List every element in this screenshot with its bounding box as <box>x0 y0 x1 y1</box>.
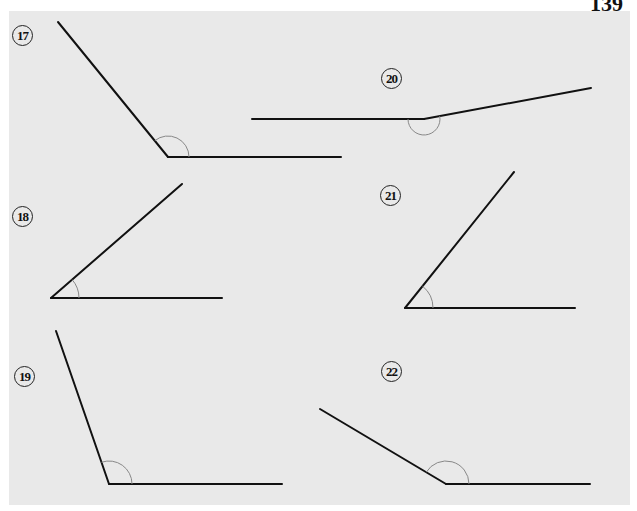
problem-number-21: 21 <box>380 185 401 206</box>
ray-arm <box>424 88 591 119</box>
problem-number-22: 22 <box>381 361 402 382</box>
angle-figures <box>0 0 637 511</box>
ray-arm <box>58 22 168 157</box>
angle-arc <box>426 461 469 484</box>
angle-figure-19 <box>56 331 282 484</box>
angle-arc <box>423 286 433 308</box>
ray-arm <box>56 331 109 484</box>
angle-figure-20 <box>252 88 591 135</box>
problem-number-17: 17 <box>12 25 33 46</box>
ray-arm <box>51 184 182 298</box>
angle-figure-17 <box>58 22 341 157</box>
angle-arc <box>72 280 79 298</box>
angle-figure-22 <box>320 409 590 484</box>
ray-arm <box>405 172 514 308</box>
angle-figure-21 <box>405 172 575 308</box>
problem-number-19: 19 <box>14 366 35 387</box>
angle-figure-18 <box>51 184 222 298</box>
ray-arm <box>320 409 446 484</box>
problem-number-18: 18 <box>12 206 33 227</box>
problem-number-20: 20 <box>381 68 402 89</box>
